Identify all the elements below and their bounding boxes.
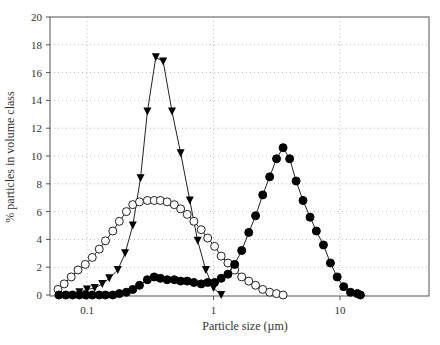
data-point xyxy=(101,237,109,245)
data-point xyxy=(101,291,109,299)
data-point xyxy=(279,144,287,152)
data-point xyxy=(306,213,314,221)
data-point xyxy=(197,226,205,234)
data-point xyxy=(177,149,185,157)
x-tick-label: 10 xyxy=(335,304,347,316)
data-point xyxy=(115,217,123,225)
data-point xyxy=(333,273,341,281)
x-tick-label: 1 xyxy=(211,304,217,316)
data-point xyxy=(190,217,198,225)
data-point xyxy=(245,228,253,236)
y-tick-label: 20 xyxy=(31,11,43,23)
data-point xyxy=(98,280,106,288)
data-point xyxy=(356,291,364,299)
y-tick-label: 10 xyxy=(31,150,43,162)
data-point xyxy=(190,278,198,286)
data-point xyxy=(238,247,246,255)
data-point xyxy=(168,108,176,116)
y-tick-label: 16 xyxy=(31,67,43,79)
data-point xyxy=(135,281,143,289)
x-axis-label: Particle size (µm) xyxy=(202,319,288,333)
data-point xyxy=(177,205,185,213)
data-point xyxy=(238,273,246,281)
data-point xyxy=(115,290,123,298)
data-point xyxy=(88,253,96,261)
y-tick-label: 8 xyxy=(37,178,43,190)
data-point xyxy=(159,57,167,65)
data-point xyxy=(259,191,267,199)
data-point xyxy=(217,252,225,260)
y-tick-label: 6 xyxy=(37,206,43,218)
data-point xyxy=(204,234,212,242)
data-point xyxy=(95,245,103,253)
data-point xyxy=(137,174,145,182)
y-tick-label: 18 xyxy=(31,39,43,51)
data-point xyxy=(211,242,219,250)
data-point xyxy=(183,210,191,218)
data-point xyxy=(81,260,89,268)
y-tick-label: 14 xyxy=(31,94,43,106)
data-point xyxy=(67,273,75,281)
data-point xyxy=(292,177,300,185)
data-point xyxy=(266,173,274,181)
data-point xyxy=(340,283,348,291)
data-point xyxy=(129,222,137,230)
y-axis-label: % particles in volume class xyxy=(3,91,17,223)
data-series xyxy=(54,53,364,299)
y-tick-label: 4 xyxy=(37,233,43,245)
data-point xyxy=(121,249,129,257)
data-point xyxy=(194,237,202,245)
data-point xyxy=(152,53,160,61)
y-axis-ticks: 02468101214161820 xyxy=(31,11,50,301)
series-triangles xyxy=(75,53,225,299)
x-axis-ticks: 0.1110 xyxy=(80,296,346,316)
data-point xyxy=(143,108,151,116)
x-tick-label: 0.1 xyxy=(80,304,94,316)
data-point xyxy=(312,227,320,235)
data-point xyxy=(217,291,225,299)
data-point xyxy=(279,291,287,299)
series-filled-circles xyxy=(55,144,364,299)
data-point xyxy=(109,227,117,235)
y-tick-label: 2 xyxy=(37,261,43,273)
particle-size-chart: 02468101214161820 0.1110 Particle size (… xyxy=(0,0,440,345)
data-point xyxy=(186,196,194,204)
y-tick-label: 0 xyxy=(37,289,43,301)
data-point xyxy=(224,270,232,278)
y-tick-label: 12 xyxy=(31,122,42,134)
data-point xyxy=(286,155,294,163)
data-point xyxy=(135,198,143,206)
data-point xyxy=(252,281,260,289)
data-point xyxy=(319,241,327,249)
data-point xyxy=(74,266,82,274)
data-point xyxy=(122,208,130,216)
data-point xyxy=(252,212,260,220)
data-point xyxy=(231,260,239,268)
data-point xyxy=(273,155,281,163)
data-point xyxy=(326,259,334,267)
data-point xyxy=(299,196,307,204)
data-point xyxy=(202,266,210,274)
data-point xyxy=(60,280,68,288)
